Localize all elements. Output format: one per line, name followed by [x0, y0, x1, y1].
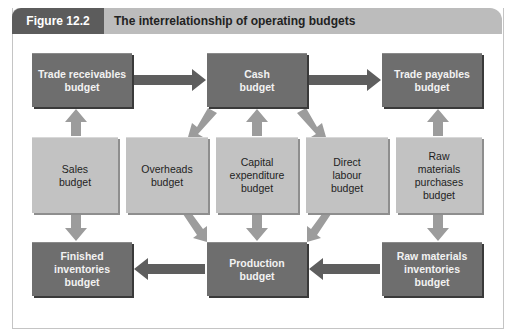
arrow-rawpurchases-to-rawinv [427, 215, 449, 241]
direct-labour-budget-box: Direct labour budget [306, 137, 388, 213]
arrow-receivables-to-cash [134, 69, 206, 91]
arrow-cash-to-overheads [188, 108, 217, 137]
raw-materials-inventories-budget-box: Raw materials inventories budget [382, 242, 482, 296]
arrow-rawinv-to-production [309, 258, 380, 280]
arrow-production-to-finished [134, 258, 205, 280]
arrow-rawpurchases-to-payables [427, 109, 449, 136]
finished-inventories-budget-box: Finished inventories budget [32, 242, 132, 296]
sales-budget-box: Sales budget [32, 137, 118, 213]
raw-materials-purchases-budget-box: Raw materials purchases budget [396, 137, 482, 213]
arrow-sales-to-receivables [65, 109, 87, 136]
arrow-overheads-to-production [183, 214, 207, 242]
trade-receivables-budget-box: Trade receivables budget [32, 53, 132, 107]
arrow-cash-to-directlabour [297, 108, 326, 137]
trade-payables-budget-box: Trade payables budget [382, 53, 482, 107]
arrow-cash-to-payables [309, 69, 381, 91]
arrow-sales-to-finished [65, 215, 87, 241]
production-budget-box: Production budget [207, 242, 307, 296]
arrow-capital-to-cash [246, 109, 268, 136]
overheads-budget-box: Overheads budget [126, 137, 208, 213]
cash-budget-box: Cash budget [207, 53, 307, 107]
capital-expenditure-budget-box: Capital expenditure budget [216, 137, 298, 213]
arrow-directlabour-to-production [307, 214, 331, 242]
arrow-capital-to-production [246, 215, 268, 241]
